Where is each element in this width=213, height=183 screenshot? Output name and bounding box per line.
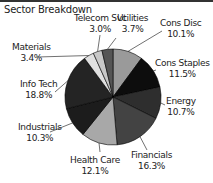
label-value: 3.4% bbox=[12, 53, 51, 64]
label-name: Info Tech bbox=[20, 79, 57, 90]
label-name: Materials bbox=[12, 42, 51, 53]
label-cons-staples: Cons Staples 11.5% bbox=[155, 58, 210, 80]
leader-line bbox=[98, 35, 100, 52]
label-name: Health Care bbox=[70, 155, 120, 166]
leader-line bbox=[107, 38, 116, 49]
label-value: 10.7% bbox=[166, 107, 196, 118]
leader-line bbox=[161, 103, 165, 105]
label-value: 10.3% bbox=[18, 133, 62, 144]
label-value: 11.5% bbox=[155, 69, 210, 80]
label-name: Utilities bbox=[117, 13, 148, 24]
label-name: Industrials bbox=[18, 122, 62, 133]
label-name: Energy bbox=[166, 96, 196, 107]
label-energy: Energy 10.7% bbox=[166, 96, 196, 118]
label-value: 3.7% bbox=[117, 24, 148, 35]
label-financials: Financials 16.3% bbox=[131, 150, 172, 172]
leader-line bbox=[140, 137, 147, 150]
label-value: 10.1% bbox=[160, 29, 201, 40]
label-info-tech: Info Tech 18.8% bbox=[20, 79, 57, 101]
label-health-care: Health Care 12.1% bbox=[70, 155, 120, 177]
label-name: Cons Disc bbox=[160, 18, 201, 29]
label-materials: Materials 3.4% bbox=[12, 42, 51, 64]
label-value: 16.3% bbox=[131, 161, 172, 172]
label-cons-disc: Cons Disc 10.1% bbox=[160, 18, 201, 40]
label-industrials: Industrials 10.3% bbox=[18, 122, 62, 144]
leader-line bbox=[99, 143, 100, 152]
label-value: 18.8% bbox=[20, 90, 57, 101]
label-value: 12.1% bbox=[70, 166, 120, 177]
label-utilities: Utilities 3.7% bbox=[117, 13, 148, 35]
label-name: Cons Staples bbox=[155, 58, 210, 69]
label-name: Financials bbox=[131, 150, 172, 161]
